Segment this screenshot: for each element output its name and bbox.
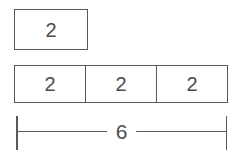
strip-cell-label: 2 bbox=[186, 74, 197, 94]
strip-cell: 2 bbox=[156, 66, 227, 102]
three-unit-strip: 2 2 2 bbox=[14, 65, 228, 103]
dimension-line: 6 bbox=[16, 116, 227, 150]
dimension-label: 6 bbox=[107, 120, 137, 143]
strip-cell: 2 bbox=[85, 66, 156, 102]
single-unit-box: 2 bbox=[14, 9, 88, 50]
right-tick bbox=[226, 116, 228, 150]
left-tick bbox=[16, 116, 18, 150]
strip-cell: 2 bbox=[15, 66, 85, 102]
strip-cell-label: 2 bbox=[44, 74, 55, 94]
strip-cell-label: 2 bbox=[115, 74, 126, 94]
single-unit-label: 2 bbox=[45, 20, 56, 40]
bar-model-diagram: 2 2 2 2 6 bbox=[0, 0, 241, 153]
